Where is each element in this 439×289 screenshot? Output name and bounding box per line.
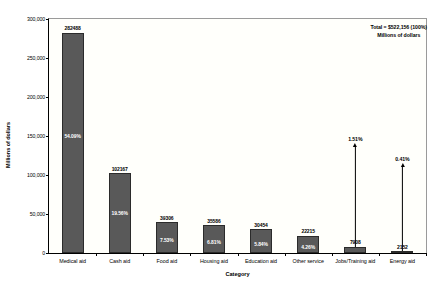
y-axis-tick-mark [46, 58, 49, 59]
x-axis-tick-mark [332, 253, 333, 256]
bar-chart: 300,000250,000200,000150,000100,00050,00… [0, 0, 439, 289]
x-axis-label-energy-aid: Energy aid [390, 258, 415, 264]
y-axis-tick-mark [46, 214, 49, 215]
y-axis-tick-label: 300,000 [27, 16, 45, 22]
y-axis-tick-mark [46, 19, 49, 20]
bar-value-label: 7908 [350, 240, 361, 245]
y-axis-tick-label: 200,000 [27, 94, 45, 100]
bar-housing-aid[interactable]: 6.81% [203, 225, 225, 253]
x-axis-title: Category [48, 271, 427, 277]
bar-value-label: 39306 [160, 216, 173, 221]
bar-value-label: 2152 [397, 245, 408, 250]
bar-percent-label: 54.09% [64, 133, 80, 139]
y-axis-tick-label: 150,000 [27, 133, 45, 139]
bar-group[interactable]: 304545.84% [250, 19, 272, 253]
x-axis-tick-mark [285, 253, 286, 256]
bar-energy-aid[interactable] [391, 251, 413, 253]
bar-medical-aid[interactable]: 54.09% [62, 33, 84, 253]
bar-other-service[interactable]: 4.26% [297, 236, 319, 253]
y-axis-tick-label: 0 [42, 250, 45, 256]
bar-percent-label: 19.56% [112, 210, 128, 216]
bar-percent-label: 6.81% [207, 239, 221, 245]
x-axis-label-food-aid: Food aid [157, 258, 178, 264]
bar-group[interactable]: 28248854.09% [62, 19, 84, 253]
bar-percent-label: 5.84% [254, 241, 268, 247]
total-annotation: Total = $522,156 (100%) Millions of doll… [370, 24, 427, 39]
plot-area: 300,000250,000200,000150,000100,00050,00… [48, 18, 427, 254]
x-axis-label-housing-aid: Housing aid [200, 258, 228, 264]
bar-percent-label: 4.26% [301, 244, 315, 250]
x-axis-tick-mark [238, 253, 239, 256]
bar-value-label: 282488 [65, 26, 81, 31]
bar-food-aid[interactable]: 7.53% [156, 222, 178, 253]
x-axis-label-education-aid: Education aid [245, 258, 277, 264]
x-axis-tick-mark [143, 253, 144, 256]
x-axis-tick-mark [426, 253, 427, 256]
y-axis-tick-label: 50,000 [30, 211, 45, 217]
bar-group[interactable]: 222154.26% [297, 19, 319, 253]
bar-group[interactable]: 393067.53% [156, 19, 178, 253]
bar-value-label: 35586 [207, 219, 220, 224]
y-axis-tick-mark [46, 253, 49, 254]
y-axis-tick-label: 250,000 [27, 55, 45, 61]
y-axis-tick-mark [46, 97, 49, 98]
bar-percent-label: 7.53% [160, 237, 174, 243]
bar-group[interactable]: 10216719.56% [109, 19, 131, 253]
bar-group[interactable]: 7908 [344, 19, 366, 253]
y-axis-title: Millions of dollars [5, 122, 11, 168]
x-axis-tick-mark [96, 253, 97, 256]
x-axis-tick-mark [190, 253, 191, 256]
x-axis-label-medical-aid: Medical aid [59, 258, 86, 264]
y-axis-tick-mark [46, 175, 49, 176]
bar-cash-aid[interactable]: 19.56% [109, 173, 131, 253]
x-axis-label-other-service: Other service [292, 258, 323, 264]
y-axis-tick-mark [46, 136, 49, 137]
bar-value-label: 22215 [301, 229, 314, 234]
bar-group[interactable]: 355866.81% [203, 19, 225, 253]
x-axis-label-cash-aid: Cash aid [109, 258, 130, 264]
total-units-line: Millions of dollars [370, 32, 427, 40]
total-amount-line: Total = $522,156 (100%) [370, 24, 427, 32]
bar-jobs-training-aid[interactable] [344, 247, 366, 253]
bar-education-aid[interactable]: 5.84% [250, 229, 272, 253]
bar-value-label: 102167 [112, 167, 128, 172]
bar-group[interactable]: 2152 [391, 19, 413, 253]
x-axis-tick-mark [379, 253, 380, 256]
bar-value-label: 30454 [254, 223, 267, 228]
x-axis-label-jobs-training-aid: Jobs/Training aid [335, 258, 375, 264]
y-axis-tick-label: 100,000 [27, 172, 45, 178]
